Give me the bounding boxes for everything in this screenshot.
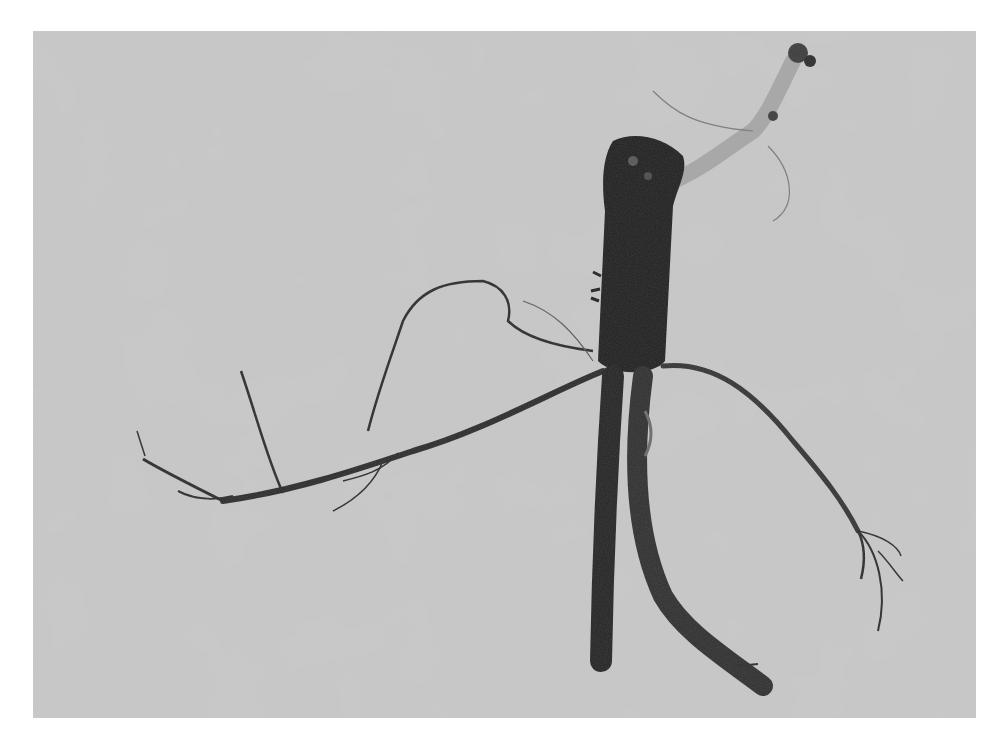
film-grain: [33, 31, 976, 718]
root-photograph: [33, 31, 976, 718]
root-illustration: [33, 31, 976, 718]
